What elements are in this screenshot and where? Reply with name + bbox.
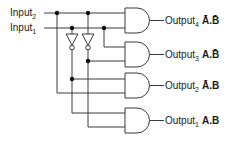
and-gate-icon — [125, 73, 150, 98]
and-gate-2 — [125, 73, 164, 98]
inverter-1-output-wire — [72, 50, 125, 113]
and-gate-icon — [125, 108, 150, 133]
input-2-label: Input2 — [10, 7, 36, 20]
input-1-branch-gate3 — [104, 28, 125, 47]
inverter-1-icon — [66, 34, 78, 45]
and-gate-4 — [125, 8, 164, 33]
junction-dot — [102, 26, 106, 30]
output-3-label: Output3A.B̄ — [165, 49, 219, 62]
output-2-label: Output2Ā.B — [165, 80, 219, 93]
output-1-label: Output1A.B — [165, 115, 219, 128]
inverter-2-icon — [82, 34, 94, 45]
and-gate-1 — [125, 108, 164, 133]
decoder-circuit-diagram: Input2 Input1 Output4Ā.B̄ Output3A.B̄ — [0, 0, 233, 142]
junction-dot — [86, 11, 90, 15]
inverter-1-bubble — [70, 45, 75, 50]
and-gate-icon — [125, 8, 149, 33]
inverter-2-output-wire — [88, 50, 125, 127]
inverter-2-bubble — [86, 45, 91, 50]
output-4-label: Output4Ā.B̄ — [165, 15, 219, 28]
junction-dot — [55, 11, 59, 15]
junction-dot — [70, 77, 74, 81]
input-1-label: Input1 — [10, 22, 36, 35]
junction-dot — [70, 26, 74, 30]
and-gate-icon — [125, 42, 149, 67]
junction-dot — [86, 59, 90, 63]
input-2-branch-gate2 — [57, 13, 125, 93]
and-gate-3 — [125, 42, 164, 67]
